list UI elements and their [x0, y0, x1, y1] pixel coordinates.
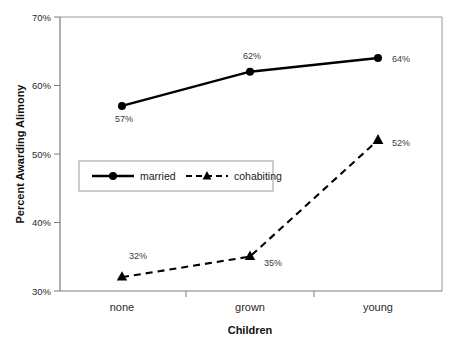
chart-legend: married cohabiting — [79, 161, 282, 191]
x-category-label-young: young — [363, 301, 393, 313]
data-label-cohabiting-young: 52% — [392, 138, 410, 148]
legend-cohabiting-label: cohabiting — [234, 170, 282, 182]
x-category-label-none: none — [110, 301, 134, 313]
alimony-line-chart: 70% 60% 50% 40% 30% none grown young Chi… — [0, 0, 455, 346]
y-tick-label-40: 40% — [32, 217, 52, 228]
x-axis-title: Children — [228, 324, 273, 336]
married-marker-grown — [246, 68, 254, 76]
legend-married-label: married — [140, 170, 176, 182]
married-marker-young — [374, 54, 382, 62]
y-tick-label-30: 30% — [32, 286, 52, 297]
data-label-married-young: 64% — [392, 54, 410, 64]
y-axis-title: Percent Awarding Alimony — [14, 84, 26, 224]
y-tick-label-50: 50% — [32, 149, 52, 160]
y-tick-label-60: 60% — [32, 80, 52, 91]
x-category-label-grown: grown — [235, 301, 265, 313]
legend-married-marker-circle-icon — [109, 172, 117, 180]
data-label-married-grown: 62% — [243, 51, 261, 61]
data-label-cohabiting-none: 32% — [129, 251, 147, 261]
y-tick-label-70: 70% — [32, 12, 52, 23]
chart-container: 70% 60% 50% 40% 30% none grown young Chi… — [0, 0, 455, 346]
data-label-married-none: 57% — [115, 114, 133, 124]
data-label-cohabiting-grown: 35% — [264, 258, 282, 268]
married-marker-none — [118, 102, 126, 110]
